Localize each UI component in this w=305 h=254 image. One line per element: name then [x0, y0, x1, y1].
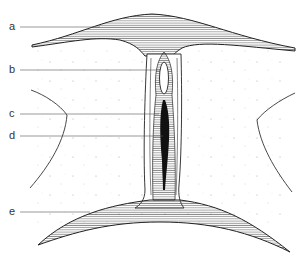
oval-cavity: [160, 62, 169, 94]
label-a: a: [9, 21, 15, 32]
label-c: c: [9, 108, 15, 119]
anatomical-diagram: [0, 0, 305, 254]
label-e: e: [9, 206, 15, 217]
label-d: d: [9, 130, 15, 141]
label-b: b: [9, 64, 15, 75]
